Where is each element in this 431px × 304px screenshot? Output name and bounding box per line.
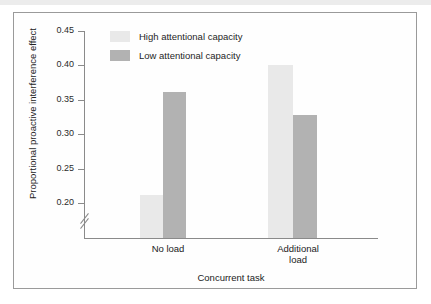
y-tick-label: 0.20 [42,198,74,207]
legend-label: Low attentional capacity [139,50,240,61]
bar-no-load-low-capacity[interactable] [163,92,186,238]
y-tick-0.30: 0.30 [40,134,84,135]
legend-swatch-icon [110,50,130,61]
x-category-line2: load [253,254,343,265]
y-tick-label: 0.45 [42,26,74,35]
bar-additional-load-high-capacity[interactable] [268,65,293,238]
y-tick-0.45: 0.45 [40,31,84,32]
legend-swatch-icon [110,31,130,42]
figure-container: 0.45 0.40 0.35 0.30 0.25 0.20 [0,0,431,304]
y-tick-label: 0.35 [42,95,74,104]
legend-item-high-attentional-capacity[interactable]: High attentional capacity [110,28,243,44]
x-axis-title: Concurrent task [84,272,378,283]
y-tick-label: 0.25 [42,164,74,173]
x-category-label-additional-load: Additional load [253,243,343,265]
x-axis-line [84,238,378,239]
x-category-line1: No load [123,243,213,254]
y-axis-title: Proportional proactive interference effe… [27,19,38,209]
legend: High attentional capacity Low attentiona… [110,28,243,66]
y-tick-label: 0.30 [42,129,74,138]
legend-item-low-attentional-capacity[interactable]: Low attentional capacity [110,47,243,63]
x-category-label-no-load: No load [123,243,213,254]
y-tick-0.20: 0.20 [40,203,84,204]
bar-no-load-high-capacity[interactable] [140,195,163,238]
y-tick-0.25: 0.25 [40,169,84,170]
y-tick-label: 0.40 [42,60,74,69]
plot-area: 0.45 0.40 0.35 0.30 0.25 0.20 [0,0,431,304]
y-tick-0.35: 0.35 [40,100,84,101]
legend-label: High attentional capacity [139,31,243,42]
x-category-line1: Additional [253,243,343,254]
bar-additional-load-low-capacity[interactable] [293,115,317,238]
y-tick-0.40: 0.40 [40,65,84,66]
